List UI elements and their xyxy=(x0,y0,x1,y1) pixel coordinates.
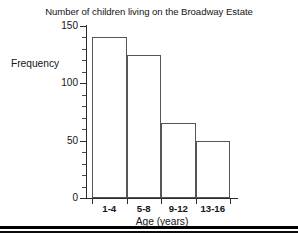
bar xyxy=(92,37,127,198)
bar-series xyxy=(86,26,238,198)
bar-chart-figure: Number of children living on the Broadwa… xyxy=(0,0,298,233)
x-tick-label: 9-12 xyxy=(169,203,188,215)
bar xyxy=(127,55,162,198)
x-tick-label: 5-8 xyxy=(137,203,151,215)
chart-title: Number of children living on the Broadwa… xyxy=(0,6,298,18)
y-tick-label: 0 xyxy=(72,193,78,203)
y-tick-label: 50 xyxy=(67,136,78,146)
page-divider-rule-secondary xyxy=(0,231,298,233)
x-tick-label: 1-4 xyxy=(102,203,116,215)
page-divider-rule xyxy=(0,226,298,229)
y-tick-label: 100 xyxy=(61,78,78,88)
bar xyxy=(196,141,231,198)
y-tick-label: 150 xyxy=(61,21,78,31)
x-tick-label: 13-16 xyxy=(200,203,225,215)
bar xyxy=(161,123,196,198)
y-axis-title: Frequency xyxy=(11,57,59,70)
